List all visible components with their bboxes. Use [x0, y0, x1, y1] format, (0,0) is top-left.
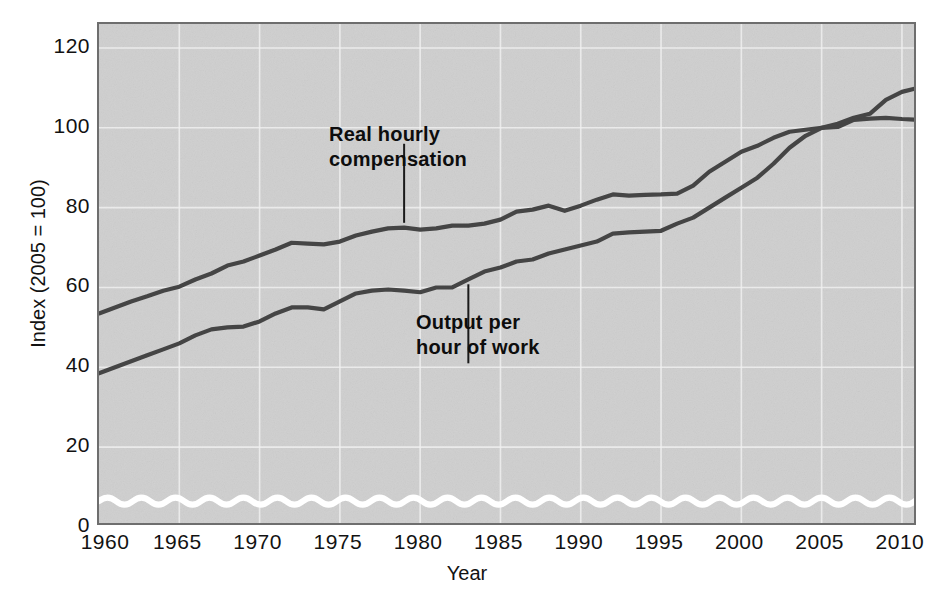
y-tick-label-20: 20 [4, 433, 90, 457]
x-tick-label-1980: 1980 [394, 530, 443, 554]
x-tick-label-2005: 2005 [795, 530, 844, 554]
x-tick-label-2010: 2010 [876, 530, 925, 554]
x-axis-title: Year [0, 562, 934, 585]
x-tick-label-1970: 1970 [233, 530, 282, 554]
axis-break-wave [99, 498, 916, 505]
x-tick-label-1960: 1960 [81, 530, 130, 554]
y-tick-label-0: 0 [4, 513, 90, 537]
gridlines [99, 24, 916, 525]
plot-area [97, 22, 916, 525]
chart-canvas [99, 24, 916, 525]
x-tick-label-1995: 1995 [635, 530, 684, 554]
annotation-real-hourly-compensation: Real hourly compensation [329, 122, 467, 172]
y-axis-title: Index (2005 = 100) [27, 134, 50, 394]
chart-figure: 020406080100120 Index (2005 = 100) [0, 0, 934, 595]
x-tick-label-1985: 1985 [474, 530, 523, 554]
y-tick-label-120: 120 [4, 34, 90, 58]
x-tick-label-1965: 1965 [153, 530, 202, 554]
x-tick-label-1990: 1990 [554, 530, 603, 554]
x-tick-label-1975: 1975 [314, 530, 363, 554]
x-tick-label-2000: 2000 [715, 530, 764, 554]
annotation-output-per-hour-of-work: Output per hour of work [416, 310, 540, 360]
